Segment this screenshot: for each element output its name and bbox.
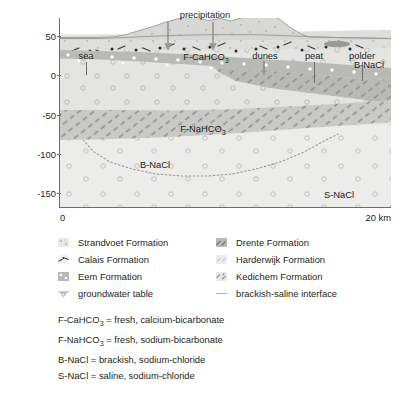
annotation-dunes: dunes — [252, 50, 278, 61]
kedichem-swatch — [216, 272, 227, 281]
peat-lens — [324, 41, 350, 47]
y-tick-label-minus100: -100 — [37, 148, 56, 159]
legend-item-drente: Drente Formation — [216, 234, 337, 251]
calais-swatch — [58, 255, 69, 264]
legend-item-groundwater-table: groundwater table — [58, 285, 168, 302]
leader-line-peat — [314, 62, 315, 83]
annotation-sea: sea — [78, 50, 93, 61]
abbreviation-block: F-CaHCO3 = fresh, calcium-bicarbonate F-… — [58, 312, 398, 384]
legend-item-harderwijk: Harderwijk Formation — [216, 251, 337, 268]
y-tick-label-50: 50 — [46, 31, 56, 42]
abbreviation-s-nacl: S-NaCl = saline, sodium-chloride — [58, 368, 398, 384]
y-tick-label-minus150: -150 — [37, 188, 56, 199]
legend-item-brackish-saline-interface: brackish-saline interface — [216, 285, 337, 302]
legend-column-left: Strandvoet Formation Calais Formation — [58, 234, 168, 302]
strandvoet-swatch — [58, 238, 69, 247]
legend-item-strandvoet: Strandvoet Formation — [58, 234, 168, 251]
leader-line-polder — [362, 62, 363, 81]
x-tick-label-left: 0 — [60, 212, 65, 223]
annotation-polder: polder — [349, 50, 375, 61]
harderwijk-swatch — [216, 255, 227, 264]
unit-label-s-nacl: S-NaCl — [324, 189, 354, 200]
y-tick-mark — [57, 193, 61, 194]
legend-column-right: Drente Formation Harderwijk Formation — [216, 234, 337, 302]
legend-item-eem: Eem Formation — [58, 268, 168, 285]
legend-item-kedichem: Kedichem Formation — [216, 268, 337, 285]
legend: Strandvoet Formation Calais Formation — [0, 234, 409, 306]
y-tick-mark — [57, 154, 61, 155]
y-tick-label-minus50: -50 — [42, 109, 56, 120]
interface-line-swatch — [216, 289, 227, 298]
legend-label: brackish-saline interface — [236, 289, 337, 298]
abbreviation-b-nacl: B-NaCl = brackish, sodium-chloride — [58, 352, 398, 368]
cross-section-figure: elevation in m below sea level — [0, 0, 409, 232]
legend-label: Harderwijk Formation — [236, 255, 325, 264]
eem-swatch — [58, 272, 69, 281]
legend-label: Drente Formation — [236, 238, 309, 247]
unit-label-f-nahco3: F-NaHCO3 — [180, 123, 226, 137]
unit-label-b-nacl-deep: B-NaCl — [140, 159, 170, 170]
abbreviation-f-cahco3: F-CaHCO3 = fresh, calcium-bicarbonate — [58, 312, 398, 332]
y-tick-mark — [57, 75, 61, 76]
y-tick-label-0: 0 — [51, 70, 56, 81]
y-tick-mark — [57, 36, 61, 37]
leader-line-sea — [86, 62, 87, 75]
precipitation-arrows — [160, 22, 260, 54]
legend-label: groundwater table — [78, 289, 153, 298]
legend-item-calais: Calais Formation — [58, 251, 168, 268]
abbreviation-f-nahco3: F-NaHCO3 = fresh, sodium-bicarbonate — [58, 332, 398, 352]
x-tick-label-right: 20 km — [365, 212, 391, 223]
legend-label: Strandvoet Formation — [78, 238, 168, 247]
legend-label: Calais Formation — [78, 255, 149, 264]
drente-swatch — [216, 238, 227, 247]
y-tick-mark — [57, 115, 61, 116]
leader-line-dunes — [256, 61, 272, 77]
legend-label: Eem Formation — [78, 272, 142, 281]
annotation-peat: peat — [305, 50, 323, 61]
legend-label: Kedichem Formation — [236, 272, 323, 281]
figure-root: elevation in m below sea level — [0, 0, 409, 400]
groundwater-table-swatch — [58, 289, 69, 298]
annotation-precipitation: precipitation — [180, 9, 231, 20]
